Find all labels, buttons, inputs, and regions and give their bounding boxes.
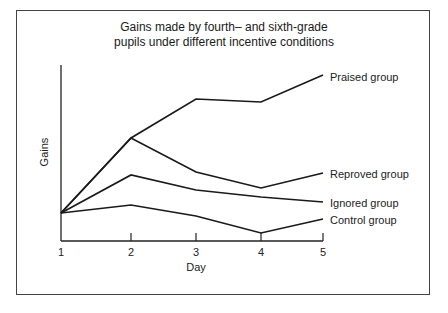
x-tick-label: 5 — [320, 246, 326, 258]
series-label: Ignored group — [330, 197, 399, 209]
x-tick-label: 2 — [128, 246, 134, 258]
x-tick-label: 3 — [193, 246, 199, 258]
series-line-control-group — [61, 205, 323, 233]
series-line-ignored-group — [61, 175, 323, 213]
y-axis-label: Gains — [38, 137, 50, 166]
series-label: Praised group — [330, 71, 399, 83]
series-line-reproved-group — [61, 138, 323, 213]
x-axis-label: Day — [186, 261, 206, 273]
line-plot: 12345DayGainsPraised groupReproved group… — [0, 0, 448, 313]
x-tick-label: 1 — [58, 246, 64, 258]
series-label: Reproved group — [330, 168, 409, 180]
x-tick-label: 4 — [258, 246, 264, 258]
series-label: Control group — [330, 214, 397, 226]
